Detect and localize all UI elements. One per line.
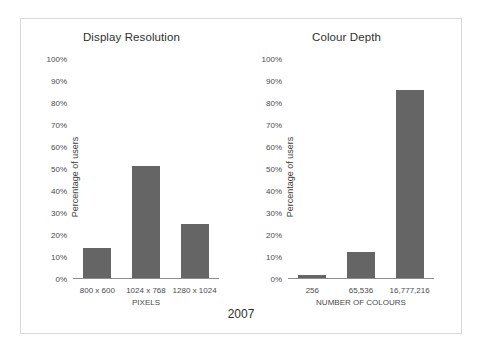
y-axis-tick-label: 70%	[51, 121, 67, 130]
plot-area: 0%10%20%30%40%50%60%70%80%90%100% 800 x …	[73, 59, 219, 279]
x-axis-tick-label: 1024 x 768	[126, 286, 166, 295]
chart-title: Colour Depth	[236, 31, 457, 43]
bar-slot: 1280 x 1024	[170, 59, 219, 279]
y-axis-tick-label: 40%	[266, 187, 282, 196]
x-axis-label: PIXELS	[73, 298, 219, 307]
y-axis-tick-label: 20%	[266, 231, 282, 240]
y-axis-tick-label: 60%	[51, 143, 67, 152]
bar-slot: 65,536	[337, 59, 386, 279]
y-axis-tick-label: 20%	[51, 231, 67, 240]
y-axis-tick-label: 60%	[266, 143, 282, 152]
y-axis-tick-label: 10%	[51, 253, 67, 262]
chart-panel-display-resolution: Display Resolution Percentage of users 0…	[21, 19, 242, 335]
x-axis-tick-label: 800 x 600	[80, 286, 115, 295]
y-axis-tick-label: 50%	[266, 165, 282, 174]
y-axis-tick-label: 30%	[266, 209, 282, 218]
x-axis-tick-label: 16,777,216	[390, 286, 430, 295]
x-axis-baseline	[288, 278, 434, 279]
y-axis-tick-label: 50%	[51, 165, 67, 174]
bar	[83, 248, 111, 279]
x-axis-tick-label: 256	[306, 286, 319, 295]
y-axis-tick-label: 0%	[270, 275, 282, 284]
y-axis-tick-label: 30%	[51, 209, 67, 218]
y-axis-tick-label: 90%	[266, 77, 282, 86]
y-axis-tick-label: 40%	[51, 187, 67, 196]
chart-title: Display Resolution	[21, 31, 242, 43]
bar	[347, 252, 375, 280]
bar-slot: 16,777,216	[385, 59, 434, 279]
bar	[132, 166, 160, 279]
bar-series: 800 x 6001024 x 7681280 x 1024	[73, 59, 219, 279]
bar-slot: 256	[288, 59, 337, 279]
bar-series: 25665,53616,777,216	[288, 59, 434, 279]
y-axis-tick-label: 100%	[47, 55, 67, 64]
x-axis-tick-label: 65,536	[349, 286, 373, 295]
x-axis-baseline	[73, 278, 219, 279]
y-axis-tick-label: 70%	[266, 121, 282, 130]
bar-slot: 800 x 600	[73, 59, 122, 279]
bar	[181, 224, 209, 279]
chart-panel-colour-depth: Colour Depth Percentage of users 0%10%20…	[236, 19, 457, 335]
bar-slot: 1024 x 768	[122, 59, 171, 279]
y-axis-tick-label: 100%	[262, 55, 282, 64]
bar	[396, 90, 424, 279]
y-axis-tick-label: 80%	[266, 99, 282, 108]
y-axis-tick-label: 80%	[51, 99, 67, 108]
y-axis-tick-label: 90%	[51, 77, 67, 86]
y-axis-tick-label: 10%	[266, 253, 282, 262]
y-axis-tick-label: 0%	[55, 275, 67, 284]
x-axis-label: NUMBER OF COLOURS	[288, 298, 434, 307]
x-axis-tick-label: 1280 x 1024	[173, 286, 217, 295]
plot-area: 0%10%20%30%40%50%60%70%80%90%100% 25665,…	[288, 59, 434, 279]
figure-frame: Display Resolution Percentage of users 0…	[20, 18, 462, 334]
year-caption: 2007	[21, 307, 461, 321]
